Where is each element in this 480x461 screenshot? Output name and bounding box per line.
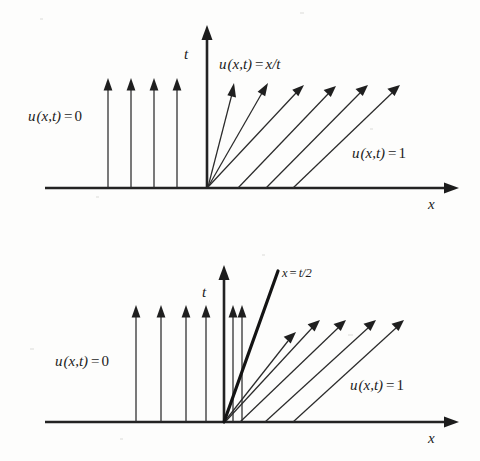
fan-characteristic	[208, 85, 304, 187]
rarefaction-fan-diagram: u(x,t)=0 u(x,t)=x/t u(x,t)=1 t x	[0, 0, 480, 230]
vertical-characteristics-group	[104, 78, 182, 188]
axis-label-x-top: x	[427, 196, 435, 212]
vertical-characteristic	[104, 78, 113, 188]
vertical-characteristic	[150, 78, 159, 188]
vertical-characteristic	[202, 305, 211, 422]
slanted-characteristic	[225, 332, 296, 421]
shock-curve	[224, 271, 278, 422]
slanted-characteristic	[226, 320, 320, 421]
axis-label-t-top: t	[184, 46, 189, 62]
vertical-characteristic	[173, 78, 182, 188]
axis-label-t-bottom: t	[202, 284, 207, 300]
slanted-characteristic	[266, 85, 368, 188]
vertical-characteristic	[127, 78, 136, 188]
x-axis	[45, 417, 459, 428]
vertical-characteristic	[182, 305, 191, 422]
slanted-characteristic	[293, 85, 400, 188]
shock-diagram: u(x,t)=0 u(x,t)=1 x=t/2 t x	[0, 230, 480, 461]
label-left-state-bottom: u(x,t)=0	[55, 353, 109, 370]
vertical-characteristic	[132, 305, 141, 422]
label-shock-curve: x=t/2	[281, 266, 312, 280]
vertical-characteristic	[157, 305, 166, 422]
slanted-characteristic	[265, 320, 376, 422]
label-fan-state: u(x,t)=x/t	[219, 56, 281, 73]
label-right-state-bottom: u(x,t)=1	[350, 377, 404, 394]
fan-characteristic	[208, 83, 268, 187]
slanted-characteristic	[238, 86, 336, 188]
slanted-characteristics-group	[225, 320, 404, 422]
label-left-state-top: u(x,t)=0	[28, 108, 82, 125]
t-axis	[219, 265, 230, 422]
axis-label-x-bottom: x	[427, 430, 435, 446]
label-right-state-top: u(x,t)=1	[352, 145, 406, 162]
t-axis	[202, 25, 213, 188]
slanted-characteristics-group	[238, 85, 400, 188]
x-axis	[45, 183, 459, 194]
figure-container: u(x,t)=0 u(x,t)=x/t u(x,t)=1 t x	[0, 0, 480, 461]
